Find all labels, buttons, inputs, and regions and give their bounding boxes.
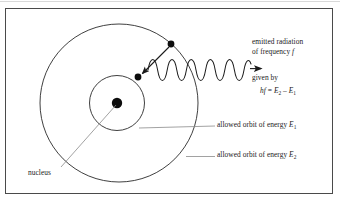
leader-line-nucleus — [61, 105, 116, 167]
orbit-e2-subscript: 2 — [294, 154, 297, 160]
atom-diagram — [0, 0, 340, 205]
electron-outer-dot — [168, 41, 175, 48]
emitted-radiation-label: emitted radiation of frequency f — [252, 37, 303, 56]
orbit-e1-text: allowed orbit of energy — [217, 120, 289, 129]
emitted-radiation-line2: of frequency — [252, 47, 292, 56]
transition-arrow — [143, 47, 170, 74]
formula-minus: – — [281, 86, 289, 95]
photon-energy-formula: hf = E2 – E1 — [260, 86, 296, 98]
given-by-label: given by — [252, 73, 278, 83]
photon-wave — [148, 60, 251, 81]
emitted-radiation-line1: emitted radiation — [252, 37, 303, 46]
leader-line-orbit-e1 — [139, 126, 215, 128]
orbit-e2-text: allowed orbit of energy — [217, 150, 289, 159]
orbit-e1-label: allowed orbit of energy E1 — [217, 120, 296, 132]
formula-e1-subscript: 1 — [293, 90, 296, 96]
figure-root: emitted radiation of frequency f given b… — [0, 0, 340, 205]
nucleus-dot — [112, 98, 122, 108]
formula-equals: = — [266, 86, 274, 95]
nucleus-label: nucleus — [28, 168, 51, 178]
frequency-symbol: f — [292, 47, 294, 56]
electron-inner-dot — [135, 74, 142, 81]
orbit-e2-label: allowed orbit of energy E2 — [217, 150, 296, 162]
orbit-e1-subscript: 1 — [294, 124, 297, 130]
